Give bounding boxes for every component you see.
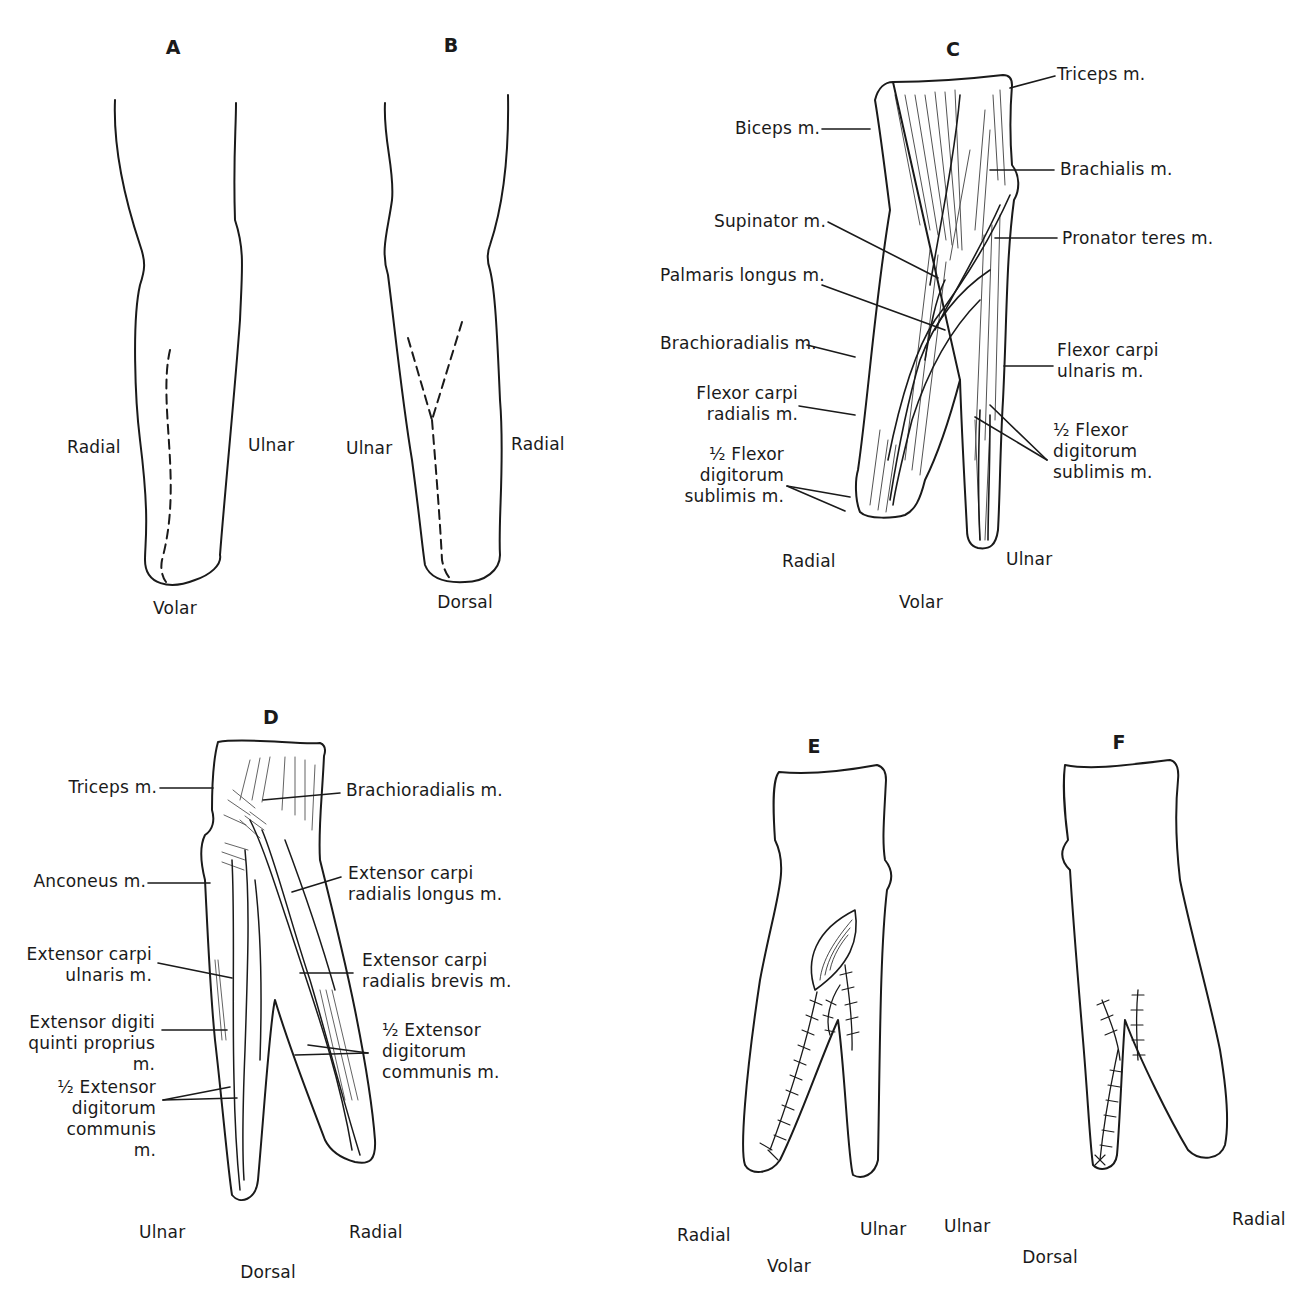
panel-d-leader-lines	[148, 788, 368, 1100]
panel-b-side-right: Radial	[511, 434, 565, 455]
panel-c-forearm-outline	[856, 75, 1018, 548]
panel-d-label-triceps: Triceps m.	[60, 777, 157, 798]
panel-d-label-ecrl: Extensor carpi radialis longus m.	[348, 863, 502, 905]
panel-c-label-fds-right: ½ Flexor digitorum sublimis m.	[1053, 420, 1153, 483]
panel-b-view: Dorsal	[437, 592, 493, 613]
panel-f-forearm-outline	[1062, 760, 1227, 1169]
panel-c-label-flexor-carpi-radialis: Flexor carpi radialis m.	[690, 383, 798, 425]
panel-c-label-fds-left: ½ Flexor digitorum sublimis m.	[680, 444, 784, 507]
panel-f-side-right: Radial	[1232, 1209, 1286, 1230]
panel-b-letter: B	[444, 34, 458, 56]
panel-d-side-left: Ulnar	[139, 1222, 185, 1243]
panel-c-label-flexor-carpi-ulnaris: Flexor carpi ulnaris m.	[1057, 340, 1159, 382]
panel-c-side-right: Ulnar	[1006, 549, 1052, 570]
panel-c-label-biceps: Biceps m.	[732, 118, 820, 139]
panel-b-incision-dashed	[408, 322, 462, 580]
panel-c-muscle-bands	[888, 95, 1010, 540]
panel-d-muscle-bands	[232, 820, 360, 1190]
panel-e-forearm-outline	[743, 765, 891, 1177]
panel-c-label-palmaris-longus: Palmaris longus m.	[660, 265, 820, 286]
panel-e-view: Volar	[767, 1256, 811, 1277]
panel-c-view: Volar	[899, 592, 943, 613]
panel-d-label-edc-right: ½ Extensor digitorum communis m.	[382, 1020, 500, 1083]
panel-a-incision-dashed	[161, 350, 170, 582]
panel-d-view: Dorsal	[240, 1262, 296, 1283]
panel-e-letter: E	[808, 735, 821, 757]
panel-a-view: Volar	[153, 598, 197, 619]
panel-c-muscle-hatching	[870, 90, 1005, 540]
panel-e-skin-graft	[811, 910, 856, 990]
krukenberg-procedure-figure: A B C D E F Radial Ulnar Volar Ulnar Rad…	[0, 0, 1315, 1312]
panel-b-forearm-outline	[385, 95, 509, 582]
panel-a-side-right: Ulnar	[248, 435, 294, 456]
panel-c-leader-lines	[787, 76, 1057, 511]
panel-d-label-edqp: Extensor digiti quinti proprius m.	[5, 1012, 155, 1075]
panel-b-side-left: Ulnar	[346, 438, 392, 459]
panel-a-forearm-outline	[115, 100, 242, 585]
panel-a-letter: A	[166, 36, 181, 58]
figure-drawings	[0, 0, 1315, 1312]
panel-d-label-brachioradialis: Brachioradialis m.	[346, 780, 503, 801]
panel-d-side-right: Radial	[349, 1222, 403, 1243]
panel-e-suture-ticks	[760, 972, 859, 1160]
panel-c-label-brachioradialis: Brachioradialis m.	[660, 333, 805, 354]
panel-f-letter: F	[1113, 731, 1126, 753]
panel-e-side-left: Radial	[677, 1225, 731, 1246]
panel-d-label-ecrb: Extensor carpi radialis brevis m.	[362, 950, 512, 992]
panel-f-view: Dorsal	[1022, 1247, 1078, 1268]
panel-a-side-left: Radial	[67, 437, 121, 458]
panel-c-label-brachialis: Brachialis m.	[1060, 159, 1173, 180]
panel-c-letter: C	[946, 38, 960, 60]
panel-d-label-edc-left: ½ Extensor digitorum communis m.	[40, 1077, 156, 1161]
panel-e-side-right: Ulnar	[860, 1219, 906, 1240]
panel-c-label-supinator: Supinator m.	[700, 211, 826, 232]
panel-c-label-pronator-teres: Pronator teres m.	[1062, 228, 1213, 249]
panel-c-label-triceps: Triceps m.	[1057, 64, 1145, 85]
panel-d-letter: D	[263, 706, 279, 728]
panel-d-label-ecu: Extensor carpi ulnaris m.	[20, 944, 152, 986]
panel-f-side-left: Ulnar	[944, 1216, 990, 1237]
panel-c-side-left: Radial	[782, 551, 836, 572]
panel-d-label-anconeus: Anconeus m.	[30, 871, 146, 892]
